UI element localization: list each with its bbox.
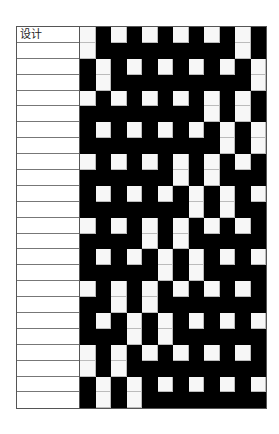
empty-cell[interactable]	[189, 202, 205, 218]
empty-cell[interactable]	[158, 186, 174, 202]
filled-cell[interactable]	[80, 265, 96, 281]
filled-cell[interactable]	[251, 329, 267, 345]
empty-cell[interactable]	[204, 91, 220, 107]
filled-cell[interactable]	[111, 234, 127, 250]
filled-cell[interactable]	[220, 27, 236, 43]
filled-cell[interactable]	[80, 138, 96, 154]
filled-cell[interactable]	[189, 91, 205, 107]
filled-cell[interactable]	[173, 59, 189, 75]
filled-cell[interactable]	[158, 154, 174, 170]
filled-cell[interactable]	[142, 202, 158, 218]
filled-cell[interactable]	[158, 218, 174, 234]
filled-cell[interactable]	[142, 43, 158, 59]
filled-cell[interactable]	[111, 122, 127, 138]
filled-cell[interactable]	[189, 138, 205, 154]
filled-cell[interactable]	[158, 27, 174, 43]
filled-cell[interactable]	[127, 218, 143, 234]
filled-cell[interactable]	[142, 75, 158, 91]
filled-cell[interactable]	[189, 75, 205, 91]
filled-cell[interactable]	[204, 234, 220, 250]
filled-cell[interactable]	[127, 27, 143, 43]
filled-cell[interactable]	[127, 281, 143, 297]
empty-cell[interactable]	[142, 281, 158, 297]
filled-cell[interactable]	[173, 122, 189, 138]
empty-cell[interactable]	[111, 27, 127, 43]
filled-cell[interactable]	[111, 75, 127, 91]
filled-cell[interactable]	[96, 106, 112, 122]
filled-cell[interactable]	[127, 154, 143, 170]
filled-cell[interactable]	[173, 75, 189, 91]
filled-cell[interactable]	[142, 106, 158, 122]
filled-cell[interactable]	[158, 75, 174, 91]
empty-cell[interactable]	[111, 345, 127, 361]
filled-cell[interactable]	[204, 186, 220, 202]
empty-cell[interactable]	[235, 345, 251, 361]
filled-cell[interactable]	[111, 313, 127, 329]
empty-cell[interactable]	[127, 329, 143, 345]
filled-cell[interactable]	[127, 202, 143, 218]
empty-cell[interactable]	[220, 377, 236, 393]
empty-cell[interactable]	[204, 170, 220, 186]
filled-cell[interactable]	[204, 249, 220, 265]
filled-cell[interactable]	[251, 43, 267, 59]
filled-cell[interactable]	[111, 43, 127, 59]
filled-cell[interactable]	[142, 329, 158, 345]
filled-cell[interactable]	[142, 265, 158, 281]
empty-cell[interactable]	[220, 202, 236, 218]
filled-cell[interactable]	[127, 138, 143, 154]
empty-cell[interactable]	[96, 377, 112, 393]
filled-cell[interactable]	[235, 234, 251, 250]
filled-cell[interactable]	[80, 59, 96, 75]
filled-cell[interactable]	[220, 234, 236, 250]
filled-cell[interactable]	[235, 202, 251, 218]
filled-cell[interactable]	[111, 265, 127, 281]
empty-cell[interactable]	[189, 186, 205, 202]
filled-cell[interactable]	[158, 234, 174, 250]
filled-cell[interactable]	[127, 75, 143, 91]
filled-cell[interactable]	[189, 392, 205, 408]
empty-cell[interactable]	[80, 43, 96, 59]
filled-cell[interactable]	[251, 170, 267, 186]
filled-cell[interactable]	[80, 313, 96, 329]
filled-cell[interactable]	[173, 313, 189, 329]
filled-cell[interactable]	[173, 186, 189, 202]
empty-cell[interactable]	[251, 377, 267, 393]
filled-cell[interactable]	[142, 138, 158, 154]
filled-cell[interactable]	[96, 154, 112, 170]
filled-cell[interactable]	[158, 392, 174, 408]
filled-cell[interactable]	[204, 43, 220, 59]
filled-cell[interactable]	[189, 234, 205, 250]
filled-cell[interactable]	[173, 249, 189, 265]
empty-cell[interactable]	[111, 91, 127, 107]
filled-cell[interactable]	[111, 392, 127, 408]
empty-cell[interactable]	[220, 313, 236, 329]
filled-cell[interactable]	[158, 106, 174, 122]
filled-cell[interactable]	[220, 281, 236, 297]
filled-cell[interactable]	[96, 43, 112, 59]
filled-cell[interactable]	[251, 106, 267, 122]
empty-cell[interactable]	[220, 122, 236, 138]
filled-cell[interactable]	[204, 297, 220, 313]
filled-cell[interactable]	[127, 345, 143, 361]
filled-cell[interactable]	[111, 249, 127, 265]
filled-cell[interactable]	[80, 329, 96, 345]
filled-cell[interactable]	[96, 202, 112, 218]
empty-cell[interactable]	[189, 313, 205, 329]
empty-cell[interactable]	[158, 329, 174, 345]
empty-cell[interactable]	[127, 392, 143, 408]
filled-cell[interactable]	[189, 154, 205, 170]
empty-cell[interactable]	[142, 234, 158, 250]
empty-cell[interactable]	[142, 91, 158, 107]
filled-cell[interactable]	[80, 392, 96, 408]
empty-cell[interactable]	[96, 392, 112, 408]
empty-cell[interactable]	[204, 154, 220, 170]
filled-cell[interactable]	[173, 202, 189, 218]
filled-cell[interactable]	[142, 122, 158, 138]
filled-cell[interactable]	[204, 265, 220, 281]
filled-cell[interactable]	[189, 27, 205, 43]
filled-cell[interactable]	[96, 361, 112, 377]
filled-cell[interactable]	[220, 218, 236, 234]
empty-cell[interactable]	[251, 59, 267, 75]
empty-cell[interactable]	[173, 170, 189, 186]
filled-cell[interactable]	[142, 361, 158, 377]
